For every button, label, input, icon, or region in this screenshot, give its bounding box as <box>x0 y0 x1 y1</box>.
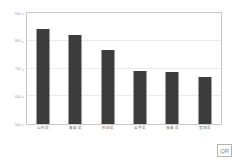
y-axis-tick-mark <box>22 125 24 126</box>
y-axis-tick-mark <box>22 41 24 42</box>
y-axis-tick-label: 800 <box>15 40 21 43</box>
bars-layer <box>27 13 221 124</box>
x-axis-tick-label: 岩手県 <box>134 127 146 131</box>
x-axis: 山形県青森県秋田県岩手県福島県宮城県 <box>27 127 221 139</box>
y-axis-tick-label: 900 <box>15 12 21 15</box>
watermark-label: QR <box>220 148 228 154</box>
bar-slot <box>124 13 156 124</box>
x-axis-tick-label: 秋田県 <box>102 127 114 131</box>
bar[interactable] <box>69 35 82 124</box>
bar[interactable] <box>101 50 114 124</box>
y-axis-tick-label: 700 <box>15 68 21 71</box>
bar[interactable] <box>134 71 147 124</box>
bar-slot <box>59 13 91 124</box>
bar-chart: 500600700800900 山形県青森県秋田県岩手県福島県宮城県 QR <box>0 0 236 160</box>
bar-slot <box>27 13 59 124</box>
y-axis: 500600700800900 <box>0 12 24 125</box>
bar[interactable] <box>198 77 211 124</box>
bar-slot <box>92 13 124 124</box>
bar-slot <box>156 13 188 124</box>
x-axis-tick-label: 宮城県 <box>199 127 211 131</box>
y-axis-tick-mark <box>22 14 24 15</box>
y-axis-tick-mark <box>22 69 24 70</box>
y-axis-tick-mark <box>22 97 24 98</box>
x-axis-tick-label: 青森県 <box>69 127 81 131</box>
bar-slot <box>189 13 221 124</box>
bar[interactable] <box>37 29 50 124</box>
bar[interactable] <box>166 72 179 124</box>
y-axis-tick-label: 500 <box>15 123 21 126</box>
watermark-badge: QR <box>217 144 232 157</box>
x-axis-tick-label: 山形県 <box>37 127 49 131</box>
y-axis-tick-label: 600 <box>15 96 21 99</box>
x-axis-tick-label: 福島県 <box>166 127 178 131</box>
